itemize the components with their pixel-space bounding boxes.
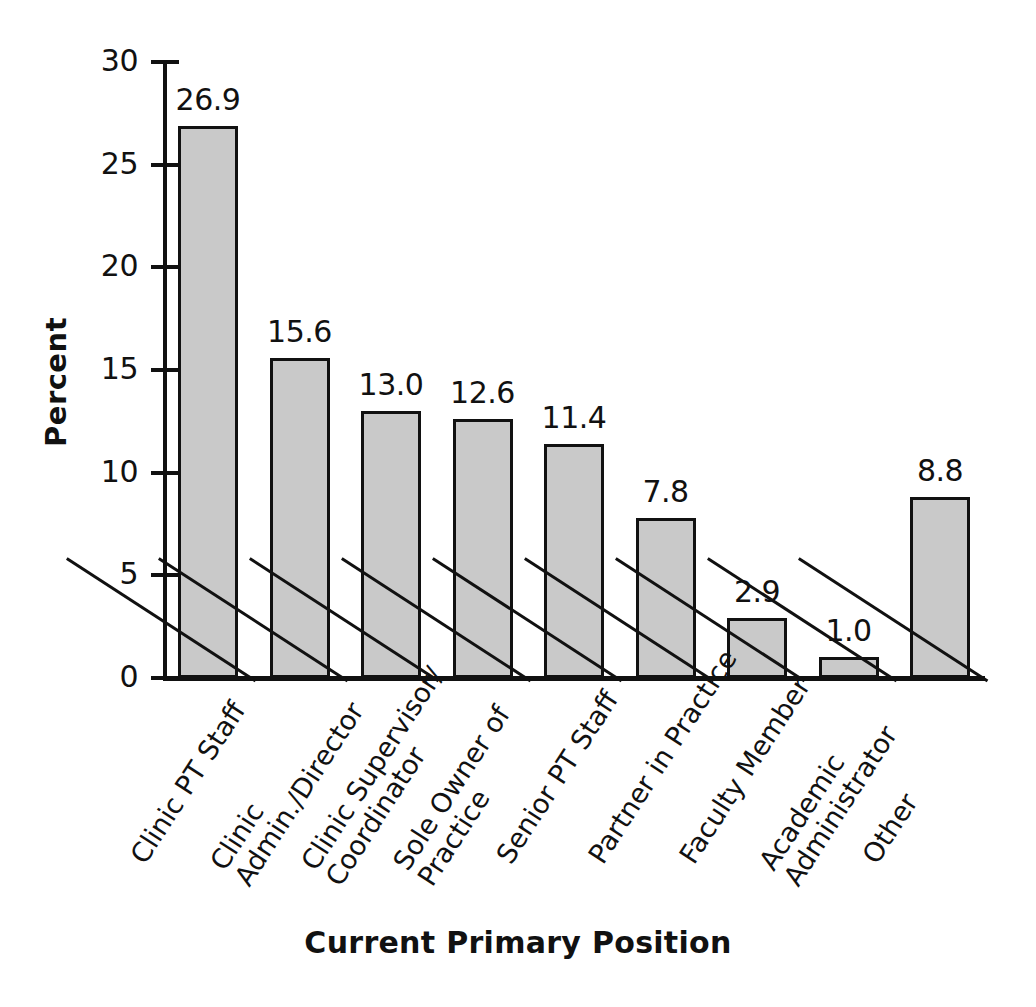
y-tick-label-30: 30 (58, 46, 138, 76)
bar-value-label: 15.6 (250, 316, 350, 348)
bar (270, 358, 330, 678)
bar-value-label: 11.4 (524, 402, 624, 434)
y-tick-label-10: 10 (58, 457, 138, 487)
bar (544, 444, 604, 678)
y-tick-30 (151, 60, 179, 64)
y-tick-5 (151, 573, 179, 577)
bar-value-label: 26.9 (158, 84, 258, 116)
bar (819, 657, 879, 678)
category-label-line: Other (857, 788, 923, 868)
bar (636, 518, 696, 678)
bar (178, 126, 238, 678)
y-tick-label-25: 25 (58, 149, 138, 179)
x-axis-title: Current Primary Position (0, 925, 1036, 960)
category-label: Other (857, 788, 923, 868)
y-tick-label-15: 15 (58, 354, 138, 384)
y-tick-label-5: 5 (58, 559, 138, 589)
y-tick-20 (151, 265, 179, 269)
bar-chart-figure: Percent 051015202530 26.915.613.012.611.… (0, 0, 1036, 1007)
bar-value-label: 1.0 (799, 615, 899, 647)
y-tick-0 (151, 676, 179, 680)
bar-value-label: 8.8 (890, 455, 990, 487)
y-tick-label-0: 0 (58, 662, 138, 692)
bar-value-label: 7.8 (616, 476, 716, 508)
y-tick-10 (151, 471, 179, 475)
bar (453, 419, 513, 678)
y-tick-15 (151, 368, 179, 372)
y-tick-label-20: 20 (58, 251, 138, 281)
bar-value-label: 13.0 (341, 369, 441, 401)
bar-value-label: 12.6 (433, 377, 533, 409)
y-tick-25 (151, 163, 179, 167)
